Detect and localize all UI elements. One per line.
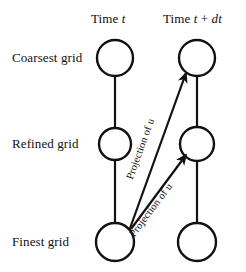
row-label-finest-grid: Finest grid — [12, 234, 69, 250]
column-header-time-t-plus-dt: Time t + dt — [163, 11, 222, 27]
row-label-coarsest-grid: Coarsest grid — [12, 50, 82, 66]
figure-canvas: Time t Time t + dt Coarsest grid Refined… — [0, 0, 246, 272]
row-label-refined-grid: Refined grid — [12, 136, 79, 152]
time-variable-dt: dt — [212, 11, 222, 26]
node-coarse-tdt[interactable] — [179, 40, 215, 76]
node-coarse-t[interactable] — [97, 40, 133, 76]
node-refined-tdt[interactable] — [180, 127, 214, 161]
column-header-time-t: Time t — [91, 11, 125, 27]
node-finest-tdt[interactable] — [178, 223, 216, 261]
node-refined-t[interactable] — [99, 128, 131, 160]
time-variable-t: t — [122, 11, 126, 26]
